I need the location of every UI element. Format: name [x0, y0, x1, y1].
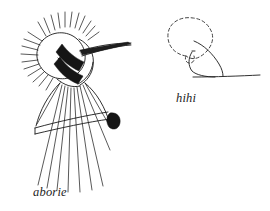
slanted-waist-band-lower	[35, 119, 110, 134]
dark-blob	[107, 113, 120, 129]
solid-stem-curve	[194, 41, 223, 76]
drawing-page: aborie hihi	[0, 0, 270, 211]
caption-hihi: hihi	[176, 91, 196, 106]
caption-aborie: aborie	[33, 185, 67, 200]
right-figure	[168, 18, 260, 77]
left-figure	[21, 12, 131, 192]
dashed-cap-outline	[168, 18, 213, 59]
figure-canvas	[0, 0, 270, 211]
